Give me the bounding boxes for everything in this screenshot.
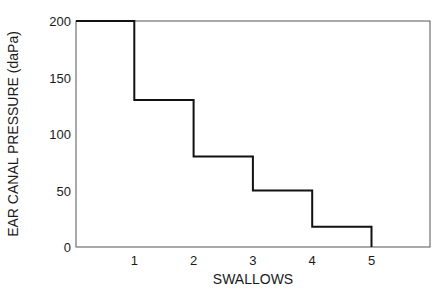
- step-chart: 050100150200 12345 SWALLOWS EAR CANAL PR…: [0, 0, 442, 297]
- x-tick-label: 5: [368, 253, 375, 268]
- y-axis-label: EAR CANAL PRESSURE (daPa): [5, 31, 21, 237]
- pressure-step-line: [76, 21, 372, 247]
- y-tick-label: 50: [57, 184, 71, 199]
- x-tick-labels: 12345: [131, 253, 375, 268]
- y-tick-label: 100: [49, 127, 71, 142]
- x-tick-label: 4: [309, 253, 316, 268]
- x-tick-label: 2: [190, 253, 197, 268]
- x-axis-label: SWALLOWS: [213, 271, 293, 287]
- x-tick-label: 1: [131, 253, 138, 268]
- y-tick-label: 200: [49, 14, 71, 29]
- y-tick-labels: 050100150200: [49, 14, 71, 255]
- y-tick-label: 150: [49, 71, 71, 86]
- x-tick-label: 3: [249, 253, 256, 268]
- plot-frame: [76, 21, 430, 247]
- y-tick-label: 0: [64, 240, 71, 255]
